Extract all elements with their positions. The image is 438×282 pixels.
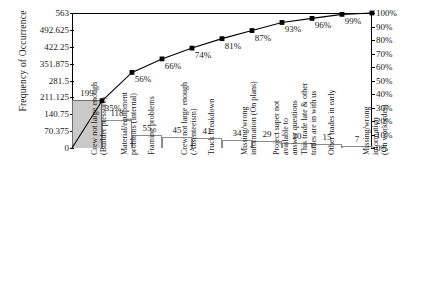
category-label: Truck breakdown	[208, 35, 217, 155]
cumulative-marker	[340, 12, 345, 17]
category-label: This trade late & other trades are in wi…	[301, 35, 319, 155]
category-label: Crew not large enough (Absenteeism)	[181, 35, 199, 155]
cumulative-marker	[160, 57, 165, 62]
category-label: Other trades in early	[328, 35, 337, 155]
category-label: Missing/wrong information (On workorder)	[363, 35, 390, 155]
category-label: Framing problems	[148, 35, 157, 155]
cumulative-marker	[250, 28, 255, 33]
cumulative-percent-label: 99%	[345, 16, 362, 26]
cumulative-percent-label: 66%	[165, 61, 182, 71]
cumulative-marker	[220, 36, 225, 41]
category-label: Missing/wrong information (On plans)	[241, 35, 259, 155]
category-label: Project super not available to answer qu…	[273, 35, 300, 155]
cumulative-marker	[370, 11, 375, 16]
cumulative-percent-label: 81%	[225, 41, 242, 51]
pareto-chart: Frequency of Occurrence 070.375140.75211…	[0, 0, 438, 282]
cumulative-marker	[280, 20, 285, 25]
cumulative-marker	[310, 16, 315, 21]
cumulative-percent-label: 96%	[315, 20, 332, 30]
category-label: Crew not large enough (Builder pressure)	[91, 35, 109, 155]
cumulative-percent-label: 93%	[285, 24, 302, 34]
category-label: Material/equipment problems (Internal)	[121, 35, 139, 155]
